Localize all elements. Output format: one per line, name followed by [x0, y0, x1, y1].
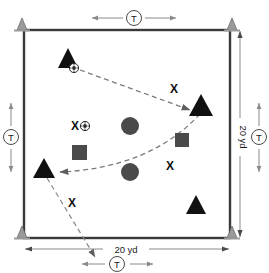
field-height-dimension: 20 yd: [233, 31, 249, 237]
right-dimension-label: T: [256, 132, 262, 143]
field-width-label: 20 yd: [114, 244, 137, 255]
right-spacing-dimension: T: [252, 103, 267, 172]
top-dimension-label: T: [131, 13, 137, 24]
player-circle-upper: [121, 117, 139, 135]
drill-diagram: T T T 20 yd 20 yd T: [0, 0, 269, 273]
bottom-spacing-dimension: T: [82, 257, 153, 272]
bottom-dimension-label: T: [114, 259, 120, 270]
player-circle-lower: [121, 163, 139, 181]
x-marker-center-left: X: [71, 119, 79, 133]
ball-top-left: [69, 63, 78, 72]
top-spacing-dimension: T: [92, 11, 176, 26]
left-spacing-dimension: T: [4, 103, 19, 172]
x-marker-bottom-left: X: [68, 196, 76, 210]
field-height-label: 20 yd: [238, 125, 249, 148]
player-square-left: [72, 145, 87, 160]
player-square-right: [175, 133, 189, 147]
x-marker-upper-right: X: [170, 82, 178, 96]
x-marker-lower-right: X: [166, 159, 174, 173]
ball-center-left: [80, 121, 89, 130]
left-dimension-label: T: [8, 132, 14, 143]
field-width-dimension: 20 yd: [25, 241, 229, 256]
